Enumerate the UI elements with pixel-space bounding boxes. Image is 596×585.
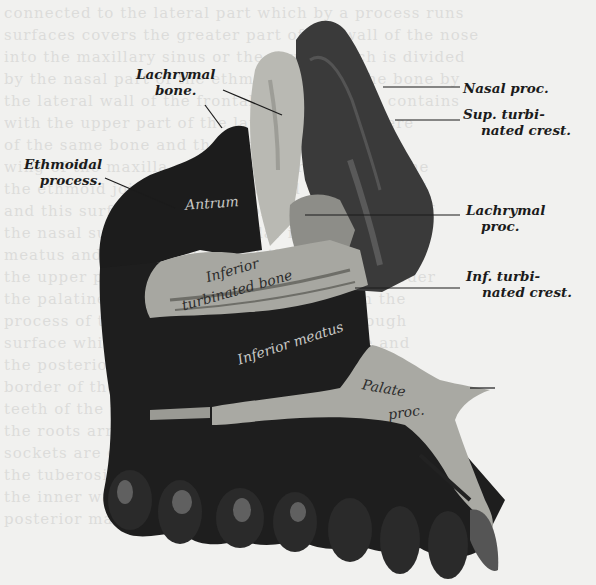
label-inf-turbinated-crest: Inf. turbi- nated crest. bbox=[466, 268, 572, 300]
label-line: bone. bbox=[136, 82, 215, 98]
label-line: nated crest. bbox=[466, 284, 572, 300]
label-line: Lachrymal bbox=[466, 202, 545, 218]
label-line: proc. bbox=[466, 218, 545, 234]
label-lachrymal-proc: Lachrymal proc. bbox=[466, 202, 545, 234]
label-line: Ethmoidal bbox=[24, 156, 102, 172]
label-line: Lachrymal bbox=[136, 66, 215, 82]
label-sup-turbinated-crest: Sup. turbi- nated crest. bbox=[463, 106, 571, 138]
label-line: process. bbox=[24, 172, 102, 188]
label-ethmoidal-process: Ethmoidal process. bbox=[24, 156, 102, 188]
label-nasal-proc: Nasal proc. bbox=[463, 80, 549, 96]
label-line: Nasal proc. bbox=[463, 80, 549, 96]
label-line: Inf. turbi- bbox=[466, 268, 572, 284]
label-lachrymal-bone: Lachrymal bone. bbox=[136, 66, 215, 98]
label-line: Sup. turbi- bbox=[463, 106, 571, 122]
label-line: nated crest. bbox=[463, 122, 571, 138]
